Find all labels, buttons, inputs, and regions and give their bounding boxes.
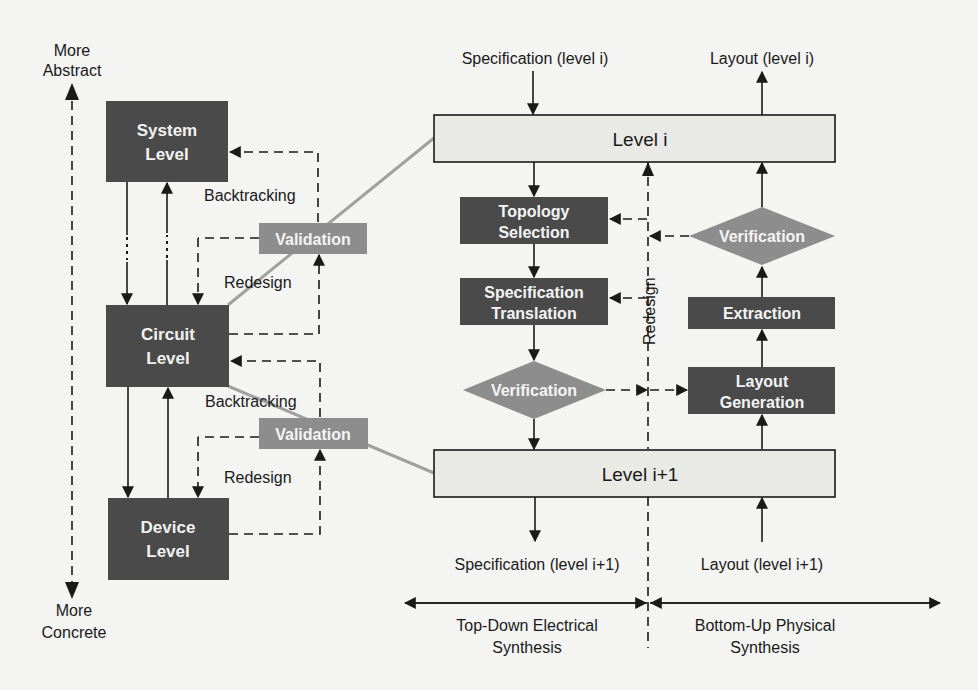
redesign-vertical-label: Redesign: [641, 277, 658, 345]
bottom-up-label-line2: Synthesis: [730, 639, 799, 656]
device-level-label-line2: Level: [146, 542, 189, 561]
axis-top-label-line1: More: [54, 42, 91, 59]
spec-translation-label-line1: Specification: [484, 284, 584, 301]
level-i-box: Level i: [434, 115, 835, 162]
redesign-upper-label: Redesign: [224, 274, 292, 291]
extraction-box: Extraction: [688, 297, 835, 329]
abstraction-axis: More Abstract More Concrete: [42, 42, 107, 641]
validation-lower-box: Validation: [259, 418, 368, 449]
backtracking-upper-label: Backtracking: [204, 187, 296, 204]
extraction-label: Extraction: [723, 305, 801, 322]
redesign-lower-label: Redesign: [224, 469, 292, 486]
verification-left-label: Verification: [491, 382, 577, 399]
arrow-down-icon: [65, 582, 79, 599]
top-down-label-line1: Top-Down Electrical: [456, 617, 597, 634]
axis-bottom-label-line2: Concrete: [42, 624, 107, 641]
backtracking-lower-label: Backtracking: [205, 393, 297, 410]
synthesis-flow-diagram: More Abstract More Concrete System Level…: [0, 0, 978, 690]
validation-upper-label: Validation: [275, 231, 351, 248]
circuit-level-label-line2: Level: [146, 349, 189, 368]
system-circuit-links: [127, 182, 167, 305]
circuit-level-box: Circuit Level: [106, 305, 229, 387]
axis-top-label-line2: Abstract: [43, 62, 102, 79]
arrow-up-icon: [65, 83, 79, 100]
topology-label-line2: Selection: [498, 224, 569, 241]
level-i1-label: Level i+1: [602, 464, 679, 485]
layout-level-i1-label: Layout (level i+1): [701, 556, 823, 573]
axis-bottom-label-line1: More: [56, 602, 93, 619]
validation-upper-box: Validation: [259, 223, 367, 254]
level-i1-box: Level i+1: [434, 450, 835, 497]
circuit-device-links: [128, 387, 168, 498]
level-i-label: Level i: [613, 129, 668, 150]
layout-level-i-label: Layout (level i): [710, 50, 814, 67]
top-down-label-line2: Synthesis: [492, 639, 561, 656]
device-level-label-line1: Device: [141, 518, 196, 537]
spec-level-i-label: Specification (level i): [462, 50, 609, 67]
system-level-box: System Level: [106, 101, 228, 182]
verification-right-label: Verification: [719, 228, 805, 245]
verification-right-diamond: Verification: [689, 207, 835, 265]
verification-left-diamond: Verification: [463, 361, 606, 419]
redesign-up-arrow-icon: [642, 162, 654, 176]
spec-level-i1-label: Specification (level i+1): [455, 556, 620, 573]
layout-generation-label-line1: Layout: [736, 373, 789, 390]
topology-label-line1: Topology: [499, 203, 570, 220]
system-level-label-line1: System: [137, 121, 197, 140]
validation-lower-label: Validation: [275, 426, 351, 443]
bottom-up-label-line1: Bottom-Up Physical: [695, 617, 836, 634]
layout-generation-box: Layout Generation: [688, 367, 835, 414]
system-level-label-line2: Level: [145, 145, 188, 164]
spec-translation-label-line2: Translation: [491, 305, 576, 322]
device-level-box: Device Level: [108, 498, 229, 580]
spec-translation-box: Specification Translation: [460, 278, 608, 325]
topology-selection-box: Topology Selection: [460, 197, 608, 244]
circuit-level-label-line1: Circuit: [141, 325, 195, 344]
layout-generation-label-line2: Generation: [720, 394, 804, 411]
